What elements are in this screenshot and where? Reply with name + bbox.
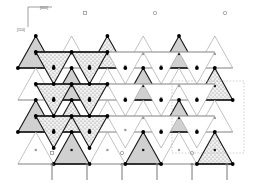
vertex-atom <box>70 98 74 102</box>
vertex-atom <box>106 34 110 38</box>
vertex-atom <box>34 34 38 38</box>
central-cation-site <box>35 149 37 151</box>
vertex-atom <box>213 130 217 134</box>
structure-canvas: [001] [110] <box>0 0 256 189</box>
vertex-atom <box>88 146 92 150</box>
central-cation-site <box>214 149 216 151</box>
vertex-atom <box>16 66 20 70</box>
vertex-atom <box>195 162 199 166</box>
central-cation-site <box>142 149 144 151</box>
vertex-atom <box>123 66 127 70</box>
axis-lines <box>28 7 52 27</box>
vertex-atom <box>70 50 74 54</box>
vertex-atom <box>231 162 235 166</box>
site-symbol-marker <box>83 11 86 14</box>
site-symbol-marker <box>50 151 53 154</box>
polarization-arrows <box>52 163 227 180</box>
vertex-atom <box>52 130 56 134</box>
vertex-atom <box>159 66 163 70</box>
vertex-atom <box>52 146 56 150</box>
vertex-atom <box>88 82 92 86</box>
central-cation-site <box>124 129 126 131</box>
site-symbol-marker <box>153 11 156 14</box>
vertex-atom <box>159 162 163 166</box>
vertex-atom <box>70 82 74 86</box>
vertex-atom <box>52 114 56 118</box>
vertex-atom <box>195 98 199 102</box>
vertex-atom <box>177 98 181 102</box>
vertex-atom <box>70 66 74 70</box>
vertex-atom <box>88 98 92 102</box>
vertex-atom <box>213 66 217 70</box>
vertex-atom <box>34 82 38 86</box>
axis-label-vertical: [110] <box>17 28 25 32</box>
vertex-atom <box>70 130 74 134</box>
vertex-atom <box>159 98 163 102</box>
vertex-atom <box>159 130 163 134</box>
vertex-atom <box>106 50 110 54</box>
vertex-atom <box>106 82 110 86</box>
vertex-atom <box>34 98 38 102</box>
vertex-atom <box>177 34 181 38</box>
axis-label-horizontal: [001] <box>40 6 48 10</box>
vertex-atom <box>123 162 127 166</box>
vertex-atom <box>231 98 235 102</box>
central-cation-site <box>71 149 73 151</box>
vertex-atom <box>52 66 56 70</box>
vertex-atom <box>88 162 92 166</box>
vertex-atom <box>16 130 20 134</box>
vertex-atom <box>88 114 92 118</box>
direction-axes: [001] [110] <box>17 6 52 32</box>
crystal-structure-figure: [001] [110] <box>0 0 256 189</box>
vertex-atom <box>195 66 199 70</box>
central-cation-site <box>106 149 108 151</box>
vertex-atom <box>34 114 38 118</box>
site-symbol-marker <box>223 11 226 14</box>
vertex-atom <box>88 130 92 134</box>
vertex-atom <box>88 66 92 70</box>
vertex-atom <box>141 66 145 70</box>
vertex-atom <box>52 82 56 86</box>
central-cation-site <box>178 149 180 151</box>
vertex-atom <box>34 50 38 54</box>
vertex-atom <box>70 114 74 118</box>
vertex-atom <box>52 98 56 102</box>
vertex-atom <box>123 98 127 102</box>
vertex-atom <box>106 114 110 118</box>
vertex-atom <box>141 130 145 134</box>
vertex-atom <box>195 130 199 134</box>
site-symbol-marker <box>120 151 123 154</box>
